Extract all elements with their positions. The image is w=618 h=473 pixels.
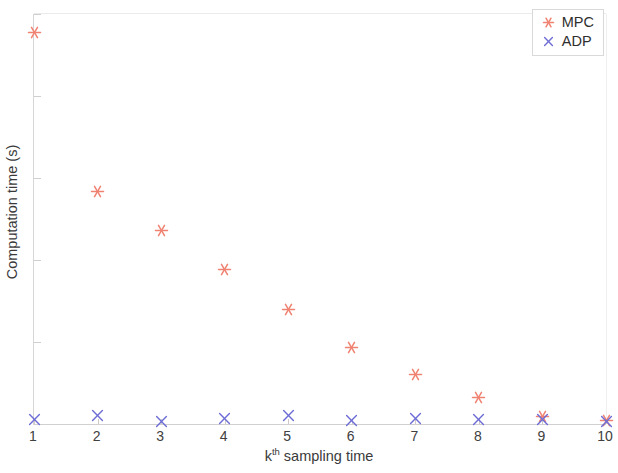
x-axis-tick-label: 9 xyxy=(521,428,561,444)
legend-item-adp[interactable]: ADP xyxy=(540,32,594,51)
data-point-mpc xyxy=(472,391,485,404)
x-axis-tick-label: 7 xyxy=(394,428,434,444)
data-point-mpc xyxy=(282,303,295,316)
x-axis-tick-label: 4 xyxy=(204,428,244,444)
y-axis-tick xyxy=(34,342,41,343)
legend-item-label: ADP xyxy=(558,32,592,50)
x-axis-tick xyxy=(34,419,35,424)
x-axis-label: kth sampling time xyxy=(33,448,605,464)
x-axis-tick-label: 10 xyxy=(585,428,618,444)
x-axis-tick-label: 3 xyxy=(140,428,180,444)
asterisk-icon xyxy=(540,16,558,30)
data-point-mpc xyxy=(218,263,231,276)
y-axis-tick xyxy=(34,178,41,179)
x-axis-tick xyxy=(415,419,416,424)
plot-top-border xyxy=(34,13,606,14)
x-axis-label-superscript: th xyxy=(272,446,280,457)
y-axis-label: Computation time (s) xyxy=(2,0,22,424)
data-point-mpc xyxy=(409,368,422,381)
x-axis-tick xyxy=(161,419,162,424)
x-axis-label-prefix: k xyxy=(265,448,272,464)
x-axis-tick xyxy=(288,419,289,424)
y-axis-tick xyxy=(34,424,41,425)
y-axis-label-text: Computation time (s) xyxy=(4,145,20,280)
data-point-mpc xyxy=(155,224,168,237)
x-axis-tick xyxy=(225,419,226,424)
x-axis-tick-label: 1 xyxy=(13,428,53,444)
data-point-mpc xyxy=(345,341,358,354)
plot-area xyxy=(33,14,606,425)
legend-item-mpc[interactable]: MPC xyxy=(540,13,594,32)
plot-right-border xyxy=(606,14,607,424)
data-point-mpc xyxy=(91,185,104,198)
y-axis-tick xyxy=(34,260,41,261)
x-axis-tick-label: 6 xyxy=(331,428,371,444)
chart-legend: MPC ADP xyxy=(532,9,604,56)
cross-icon xyxy=(540,35,558,49)
x-axis-tick xyxy=(606,419,607,424)
x-axis-tick xyxy=(542,419,543,424)
x-axis-tick xyxy=(98,419,99,424)
x-axis-tick-label: 2 xyxy=(77,428,117,444)
data-point-mpc xyxy=(28,26,41,39)
y-axis-tick xyxy=(34,14,41,15)
x-axis-tick xyxy=(352,419,353,424)
x-axis-label-suffix: sampling time xyxy=(280,448,373,464)
x-axis-tick-label: 5 xyxy=(267,428,307,444)
x-axis-tick xyxy=(479,419,480,424)
y-axis-tick xyxy=(34,96,41,97)
legend-item-label: MPC xyxy=(558,13,594,31)
x-axis-tick-label: 8 xyxy=(458,428,498,444)
